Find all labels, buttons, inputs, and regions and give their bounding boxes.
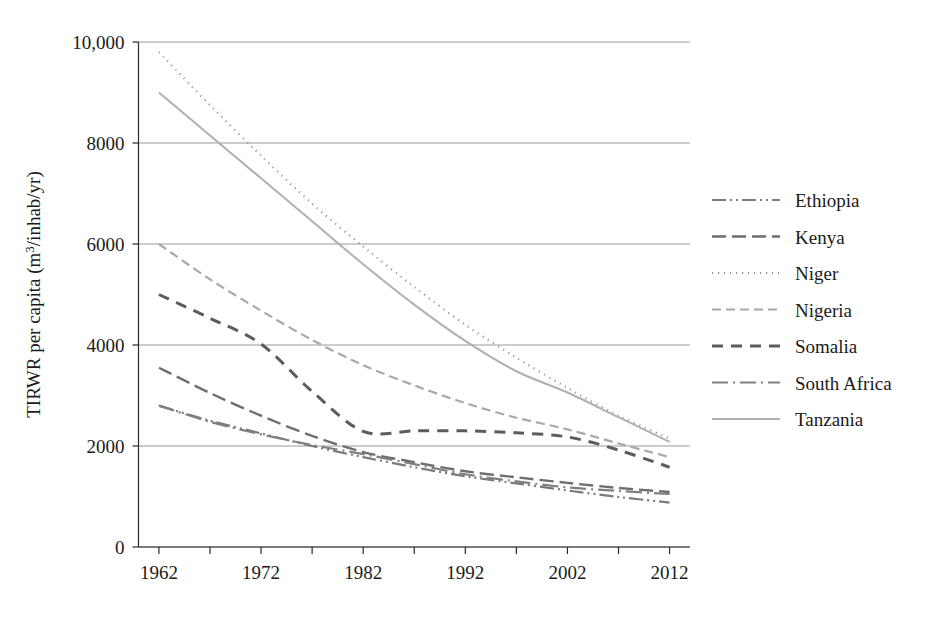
y-tick-label-4000: 4000: [87, 335, 125, 356]
y-axis-label: TIRWR per capita (m3/inhab/yr): [22, 171, 45, 418]
x-tick-label-1982: 1982: [344, 562, 382, 583]
chart-figure: 0200040006000800010,000 1962197219821992…: [0, 0, 928, 617]
y-axis-label-text: TIRWR per capita (m3/inhab/yr): [22, 171, 45, 418]
x-tick-label-2002: 2002: [548, 562, 586, 583]
y-axis-label-prefix: TIRWR per capita (m: [23, 252, 45, 417]
x-tick-label-2012: 2012: [651, 562, 689, 583]
y-tick-label-8000: 8000: [87, 133, 125, 154]
legend-label-kenya: Kenya: [795, 227, 845, 248]
x-tick-label-1962: 1962: [140, 562, 178, 583]
legend-label-niger: Niger: [795, 263, 839, 284]
y-tick-label-6000: 6000: [87, 234, 125, 255]
y-tick-label-0: 0: [115, 537, 125, 558]
legend-label-somalia: Somalia: [795, 336, 858, 357]
x-tick-label-1992: 1992: [446, 562, 484, 583]
legend-label-ethiopia: Ethiopia: [795, 190, 860, 211]
legend-label-nigeria: Nigeria: [795, 300, 853, 321]
y-tick-label-2000: 2000: [87, 436, 125, 457]
chart-background: [0, 0, 928, 617]
line-chart-canvas: 0200040006000800010,000 1962197219821992…: [0, 0, 928, 617]
legend-label-tanzania: Tanzania: [795, 409, 864, 430]
legend-label-south-africa: South Africa: [795, 373, 892, 394]
y-tick-label-10000: 10,000: [72, 32, 124, 53]
y-axis-label-suffix: /inhab/yr): [23, 171, 45, 246]
x-tick-label-1972: 1972: [242, 562, 280, 583]
